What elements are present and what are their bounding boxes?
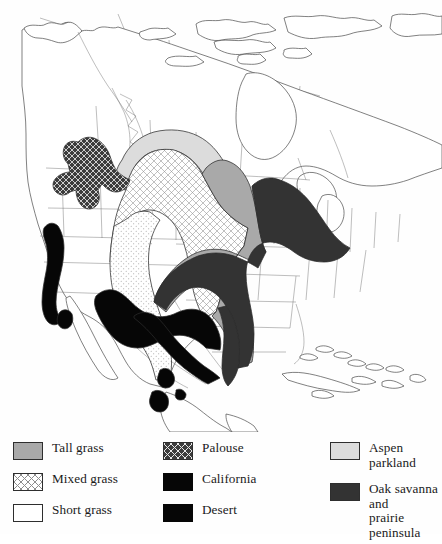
legend-label-short-grass: Short grass <box>52 503 112 518</box>
region-desert-dot-3 <box>175 389 186 400</box>
region-california <box>42 223 64 325</box>
legend-item-short-grass[interactable]: Short grass <box>13 503 163 522</box>
legend-column-2: Palouse California Desert <box>163 436 303 534</box>
legend-swatch-short-grass <box>13 504 43 522</box>
legend-label-tall-grass: Tall grass <box>52 441 104 456</box>
region-california-south <box>57 310 73 329</box>
legend-label-palouse: Palouse <box>202 441 244 456</box>
north-america-map <box>0 0 442 432</box>
legend-swatch-california <box>163 473 193 491</box>
legend-item-desert[interactable]: Desert <box>163 503 303 522</box>
map-area <box>0 0 442 432</box>
legend-label-oak-savanna: Oak savanna and prairie peninsula <box>369 482 442 540</box>
legend-swatch-mixed-grass <box>13 473 43 491</box>
legend-item-aspen-parkland[interactable]: Aspen parkland <box>330 441 442 470</box>
region-desert-dot-2 <box>149 390 168 412</box>
legend-swatch-desert <box>163 504 193 522</box>
legend-label-mixed-grass: Mixed grass <box>52 472 118 487</box>
legend-swatch-palouse <box>163 442 193 460</box>
legend: Tall grass Mixed grass Short grass Palou… <box>0 436 442 534</box>
legend-item-tall-grass[interactable]: Tall grass <box>13 441 163 460</box>
legend-item-mixed-grass[interactable]: Mixed grass <box>13 472 163 491</box>
legend-column-1: Tall grass Mixed grass Short grass <box>13 436 163 534</box>
legend-column-3: Aspen parkland Oak savanna and prairie p… <box>330 436 442 544</box>
legend-item-palouse[interactable]: Palouse <box>163 441 303 460</box>
region-desert-dot-1 <box>157 368 174 388</box>
legend-swatch-oak-savanna <box>330 483 360 501</box>
legend-swatch-aspen-parkland <box>330 442 360 460</box>
legend-label-california: California <box>202 472 256 487</box>
legend-label-aspen-parkland: Aspen parkland <box>369 441 442 470</box>
legend-label-desert: Desert <box>202 503 237 518</box>
legend-item-california[interactable]: California <box>163 472 303 491</box>
legend-swatch-tall-grass <box>13 442 43 460</box>
legend-item-oak-savanna[interactable]: Oak savanna and prairie peninsula <box>330 482 442 540</box>
